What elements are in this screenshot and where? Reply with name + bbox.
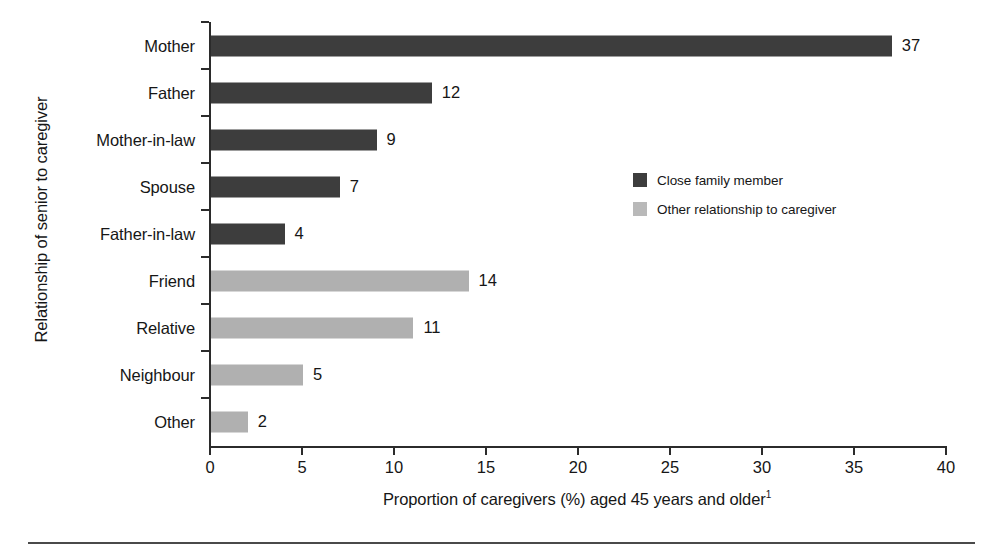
x-axis-tick-label: 20 xyxy=(569,458,587,477)
y-axis-title: Relationship of senior to caregiver xyxy=(32,10,51,430)
legend-item-close-family-member: Close family member xyxy=(633,168,836,192)
bar: 7 xyxy=(211,176,340,197)
bar-value-label: 12 xyxy=(442,83,460,102)
y-axis-tick xyxy=(201,21,209,23)
y-axis-tick-label: Mother-in-law xyxy=(96,130,195,149)
bar-row-relative: Relative11 xyxy=(209,304,945,351)
bar: 14 xyxy=(211,270,469,291)
y-axis-tick xyxy=(201,397,209,399)
x-axis-tick xyxy=(669,446,671,455)
x-axis-tick xyxy=(393,446,395,455)
y-axis-tick xyxy=(201,115,209,117)
y-axis-tick-label: Father-in-law xyxy=(100,224,195,243)
y-axis-tick xyxy=(201,162,209,164)
plot-area: Mother37Father12Mother-in-law9Spouse7Fat… xyxy=(209,22,945,445)
legend-swatch-icon xyxy=(633,173,647,187)
y-axis-tick-label: Friend xyxy=(149,271,195,290)
bar-value-label: 4 xyxy=(295,224,304,243)
x-axis-tick-label: 40 xyxy=(937,458,955,477)
legend-label: Other relationship to caregiver xyxy=(657,202,836,217)
x-axis-tick xyxy=(853,446,855,455)
y-axis-tick xyxy=(201,209,209,211)
x-axis-tick-label: 10 xyxy=(385,458,403,477)
legend-swatch-icon xyxy=(633,202,647,216)
bar-value-label: 5 xyxy=(313,365,322,384)
y-axis-tick-label: Neighbour xyxy=(120,365,195,384)
x-axis-tick xyxy=(945,446,947,455)
bar-value-label: 37 xyxy=(902,36,920,55)
y-axis-tick xyxy=(201,303,209,305)
legend-item-other-relationship: Other relationship to caregiver xyxy=(633,197,836,221)
x-axis-tick-label: 25 xyxy=(661,458,679,477)
x-axis-title-footnote-marker: 1 xyxy=(766,489,771,500)
bar-row-mother-in-law: Mother-in-law9 xyxy=(209,116,945,163)
y-axis-tick-label: Mother xyxy=(144,36,195,55)
bar: 37 xyxy=(211,35,892,56)
bar-row-other: Other2 xyxy=(209,398,945,445)
chart-legend: Close family member Other relationship t… xyxy=(633,168,836,226)
x-axis-tick-label: 30 xyxy=(753,458,771,477)
x-axis-tick-label: 0 xyxy=(205,458,214,477)
y-axis-tick-label: Other xyxy=(154,412,195,431)
x-axis-tick-label: 35 xyxy=(845,458,863,477)
bar-value-label: 9 xyxy=(387,130,396,149)
bar-value-label: 11 xyxy=(423,318,440,337)
bar: 9 xyxy=(211,129,377,150)
bar-row-neighbour: Neighbour5 xyxy=(209,351,945,398)
bar: 4 xyxy=(211,223,285,244)
bar: 2 xyxy=(211,411,248,432)
x-axis-tick xyxy=(301,446,303,455)
y-axis-tick-label: Spouse xyxy=(140,177,195,196)
bar-value-label: 2 xyxy=(258,412,267,431)
bar-chart-figure: Relationship of senior to caregiver Moth… xyxy=(0,0,983,557)
bar: 11 xyxy=(211,317,413,338)
y-axis-tick-label: Relative xyxy=(136,318,195,337)
x-axis-title: Proportion of caregivers (%) aged 45 yea… xyxy=(209,489,945,509)
y-axis-tick-label: Father xyxy=(148,83,195,102)
footer-divider xyxy=(28,542,975,544)
y-axis-tick xyxy=(201,256,209,258)
bar-row-friend: Friend14 xyxy=(209,257,945,304)
x-axis-tick-label: 15 xyxy=(477,458,495,477)
x-axis-tick xyxy=(577,446,579,455)
legend-label: Close family member xyxy=(657,173,783,188)
bar-row-mother: Mother37 xyxy=(209,22,945,69)
bar: 12 xyxy=(211,82,432,103)
x-axis-tick-label: 5 xyxy=(297,458,306,477)
bar-value-label: 7 xyxy=(350,177,359,196)
bar-value-label: 14 xyxy=(479,271,497,290)
y-axis-tick xyxy=(201,68,209,70)
bar: 5 xyxy=(211,364,303,385)
x-axis-tick xyxy=(209,446,211,455)
y-axis-tick xyxy=(201,350,209,352)
x-axis-tick xyxy=(761,446,763,455)
bar-row-father: Father12 xyxy=(209,69,945,116)
x-axis-tick xyxy=(485,446,487,455)
x-axis-title-text: Proportion of caregivers (%) aged 45 yea… xyxy=(383,490,766,508)
